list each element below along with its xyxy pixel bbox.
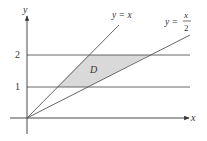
label-y-equals-x: y = x bbox=[111, 10, 132, 20]
region-label: D bbox=[89, 64, 98, 75]
label-y-equals-half-x-den: 2 bbox=[184, 23, 189, 33]
line-y-equals-half-x bbox=[27, 35, 190, 118]
region-diagram: y x 2 1 y = x y = x 2 D bbox=[0, 0, 207, 141]
region-d bbox=[57, 55, 149, 87]
y-axis-label: y bbox=[22, 4, 28, 15]
y-tick-1: 1 bbox=[15, 81, 20, 92]
label-y-equals-half-x-num: x bbox=[183, 10, 188, 20]
y-tick-2: 2 bbox=[15, 49, 20, 60]
x-axis-label: x bbox=[190, 112, 196, 123]
label-y-equals-half-x-lhs: y = bbox=[164, 17, 178, 27]
